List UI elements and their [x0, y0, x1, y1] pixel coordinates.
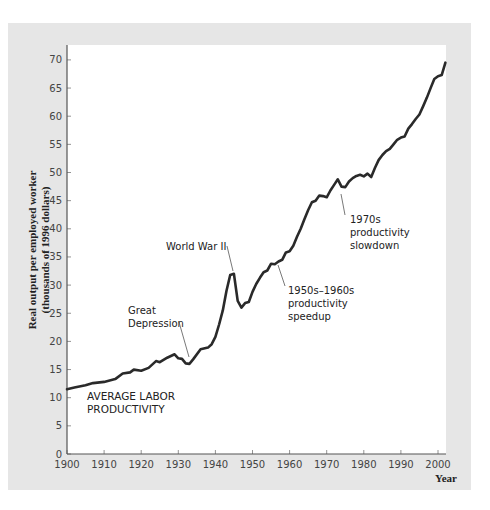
annotation-text: PRODUCTIVITY — [87, 403, 165, 415]
annotation-text: AVERAGE LABOR — [87, 390, 175, 402]
annotation-text: World War II — [166, 241, 226, 252]
x-tick-label: 1940 — [203, 459, 228, 470]
annotation-text: 1970s — [350, 214, 381, 225]
y-axis-title: Real output per employed worker (thousan… — [26, 171, 52, 330]
y-tick-label: 5 — [56, 420, 62, 431]
y-tick-label: 30 — [49, 280, 62, 291]
y-axis-title-line-1: Real output per employed worker — [26, 171, 38, 330]
x-tick-label: 1900 — [54, 459, 79, 470]
x-tick-label: 1990 — [388, 459, 413, 470]
annotation-text: productivity — [288, 298, 348, 309]
y-tick-label: 45 — [49, 195, 62, 206]
y-tick-label: 40 — [49, 223, 62, 234]
x-tick-label: 1950 — [240, 459, 265, 470]
y-tick-label: 50 — [49, 167, 62, 178]
x-tick-label: 1920 — [128, 459, 153, 470]
x-axis-title: Year — [435, 472, 457, 484]
y-axis-title-line-2: (thousands of 1996 dollars) — [39, 186, 52, 313]
annotation-text: Great — [128, 305, 156, 316]
annotation-series-label: AVERAGE LABOR PRODUCTIVITY — [87, 390, 175, 415]
annotation-text: 1950s–1960s — [288, 285, 354, 296]
x-tick-label: 2000 — [425, 459, 450, 470]
x-tick-label: 1970 — [314, 459, 339, 470]
y-tick-label: 35 — [49, 251, 62, 262]
x-tick-label: 1960 — [277, 459, 302, 470]
y-tick-label: 0 — [56, 449, 62, 460]
y-tick-label: 20 — [49, 336, 62, 347]
y-tick-label: 25 — [49, 308, 62, 319]
annotation-text: productivity — [350, 227, 410, 238]
annotation-text: slowdown — [350, 240, 399, 251]
productivity-line-chart: 0510152025303540455055606570 19001910192… — [0, 0, 490, 510]
annotation-text: Depression — [128, 318, 184, 329]
x-tick-label: 1930 — [166, 459, 191, 470]
y-tick-label: 70 — [49, 54, 62, 65]
x-tick-label: 1910 — [91, 459, 116, 470]
y-tick-label: 10 — [49, 392, 62, 403]
y-tick-label: 55 — [49, 139, 62, 150]
y-tick-label: 15 — [49, 364, 62, 375]
x-tick-label: 1980 — [351, 459, 376, 470]
y-tick-label: 65 — [49, 83, 62, 94]
annotation-text: speedup — [288, 311, 331, 322]
y-tick-label: 60 — [49, 111, 62, 122]
